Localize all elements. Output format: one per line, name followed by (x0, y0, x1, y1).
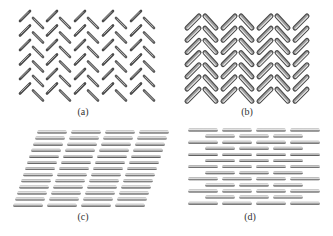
panel-d-label: (d) (235, 211, 265, 222)
panel-b-rods (187, 16, 308, 102)
panel-c-label: (c) (68, 211, 98, 222)
figure-artwork (0, 0, 333, 236)
panel-c-rods (13, 131, 169, 207)
panel-d-rods (188, 129, 320, 205)
panel-a-rods (20, 11, 154, 101)
panel-a-label: (a) (68, 106, 98, 117)
figure: (a) (b) (c) (d) (0, 0, 333, 236)
panel-b-label: (b) (232, 106, 262, 117)
